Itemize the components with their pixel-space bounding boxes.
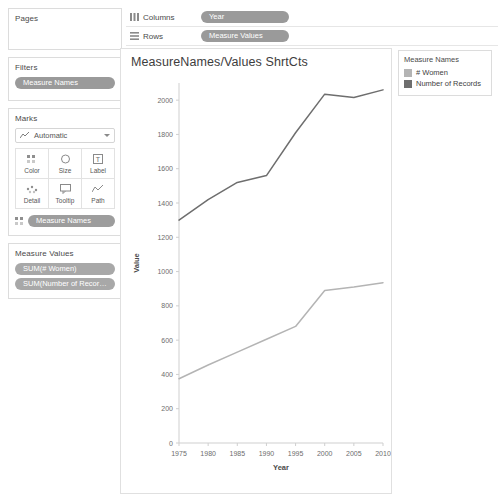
- marks-path-label: Path: [91, 197, 104, 204]
- color-icon: [27, 154, 38, 165]
- filters-card-title: Filters: [15, 63, 115, 72]
- svg-text:Year: Year: [273, 463, 289, 472]
- svg-text:1400: 1400: [157, 200, 173, 207]
- measure-values-title: Measure Values: [15, 249, 115, 258]
- color-icon: [15, 216, 24, 227]
- chart-svg: 0200400600800100012001400160018002000197…: [121, 71, 391, 493]
- line-chart-icon: [20, 130, 30, 141]
- columns-shelf-label: Columns: [140, 13, 201, 22]
- svg-text:1975: 1975: [171, 450, 187, 457]
- marks-label-label: Label: [90, 167, 106, 174]
- marks-encoding-row: Measure Names: [15, 215, 115, 227]
- measure-value-pill-women[interactable]: SUM(# Women): [15, 263, 115, 275]
- marks-card-title: Marks: [15, 114, 115, 123]
- svg-text:2005: 2005: [346, 450, 362, 457]
- marks-size-label: Size: [59, 167, 72, 174]
- marks-pill-measure-names[interactable]: Measure Names: [28, 215, 115, 227]
- marks-button-grid: Color Size T Label: [15, 148, 115, 209]
- legend-item-women[interactable]: # Women: [404, 68, 486, 77]
- line-chart[interactable]: 0200400600800100012001400160018002000197…: [121, 71, 391, 493]
- svg-text:2000: 2000: [157, 97, 173, 104]
- svg-text:2000: 2000: [317, 450, 333, 457]
- svg-text:400: 400: [161, 371, 173, 378]
- svg-text:1600: 1600: [157, 165, 173, 172]
- svg-text:600: 600: [161, 337, 173, 344]
- size-icon: [60, 154, 71, 165]
- svg-text:T: T: [96, 156, 101, 163]
- page-title: MeasureNames/Values ShrtCts: [121, 49, 391, 69]
- svg-text:800: 800: [161, 302, 173, 309]
- marks-detail-label: Detail: [24, 197, 41, 204]
- filters-card[interactable]: Filters Measure Names: [8, 57, 122, 101]
- svg-text:Value: Value: [132, 253, 141, 273]
- worksheet-panel: MeasureNames/Values ShrtCts 020040060080…: [120, 48, 392, 494]
- measure-value-pill-number-of-records[interactable]: SUM(Number of Records): [15, 278, 115, 290]
- svg-text:1985: 1985: [229, 450, 245, 457]
- rows-shelf[interactable]: Rows Measure Values: [126, 27, 498, 46]
- filter-pill-measure-names[interactable]: Measure Names: [15, 77, 115, 89]
- path-icon: [92, 184, 104, 195]
- columns-pill-year[interactable]: Year: [201, 11, 289, 23]
- svg-text:0: 0: [169, 440, 173, 447]
- rows-pill-measure-values[interactable]: Measure Values: [201, 30, 289, 42]
- marks-card: Marks Automatic: [8, 108, 122, 236]
- svg-text:1800: 1800: [157, 131, 173, 138]
- left-sidebar: Pages Filters Measure Names Marks Automa…: [8, 8, 122, 306]
- columns-shelf[interactable]: Columns Year: [126, 8, 498, 27]
- mark-type-label: Automatic: [34, 131, 104, 140]
- tableau-worksheet-window: Pages Filters Measure Names Marks Automa…: [0, 0, 498, 502]
- svg-text:2010: 2010: [375, 450, 391, 457]
- mark-type-select[interactable]: Automatic: [15, 128, 115, 143]
- measure-names-legend: Measure Names # Women Number of Records: [398, 50, 492, 96]
- rows-shelf-label: Rows: [140, 32, 201, 41]
- svg-text:1995: 1995: [288, 450, 304, 457]
- tooltip-icon: [60, 184, 71, 195]
- svg-text:1980: 1980: [200, 450, 216, 457]
- columns-icon: [128, 13, 140, 21]
- svg-text:1000: 1000: [157, 268, 173, 275]
- rows-icon: [128, 32, 140, 40]
- detail-icon: [26, 184, 38, 195]
- svg-text:1200: 1200: [157, 234, 173, 241]
- label-icon: T: [93, 154, 103, 165]
- marks-path-button[interactable]: Path: [82, 179, 115, 209]
- marks-tooltip-label: Tooltip: [56, 197, 75, 204]
- measure-values-card: Measure Values SUM(# Women) SUM(Number o…: [8, 243, 122, 299]
- chevron-down-icon[interactable]: [104, 134, 110, 137]
- marks-color-button[interactable]: Color: [16, 149, 49, 179]
- legend-item-number-of-records[interactable]: Number of Records: [404, 79, 486, 88]
- marks-label-button[interactable]: T Label: [82, 149, 115, 179]
- legend-item-label: # Women: [416, 68, 448, 77]
- marks-detail-button[interactable]: Detail: [16, 179, 49, 209]
- marks-size-button[interactable]: Size: [49, 149, 82, 179]
- legend-title: Measure Names: [404, 55, 486, 64]
- pages-card-title: Pages: [15, 14, 115, 23]
- marks-tooltip-button[interactable]: Tooltip: [49, 179, 82, 209]
- shelf-area: Columns Year Rows Measure Values: [126, 8, 498, 46]
- marks-color-label: Color: [24, 167, 40, 174]
- legend-swatch: [404, 80, 412, 88]
- legend-item-label: Number of Records: [416, 79, 481, 88]
- legend-swatch: [404, 69, 412, 77]
- pages-card[interactable]: Pages: [8, 8, 122, 50]
- svg-text:200: 200: [161, 405, 173, 412]
- svg-text:1990: 1990: [259, 450, 275, 457]
